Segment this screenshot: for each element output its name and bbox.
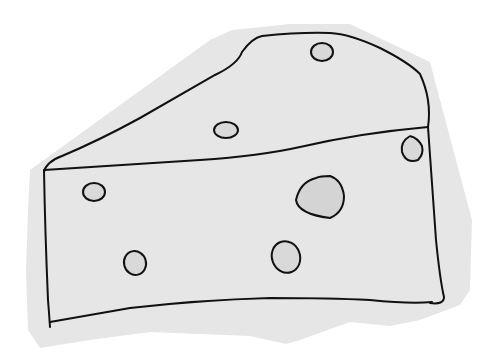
cheese-drawing bbox=[0, 0, 488, 357]
cheese-hole bbox=[83, 183, 105, 201]
cheese-illustration bbox=[0, 0, 488, 357]
cheese-hole bbox=[311, 43, 333, 61]
cheese-hole bbox=[214, 122, 238, 138]
